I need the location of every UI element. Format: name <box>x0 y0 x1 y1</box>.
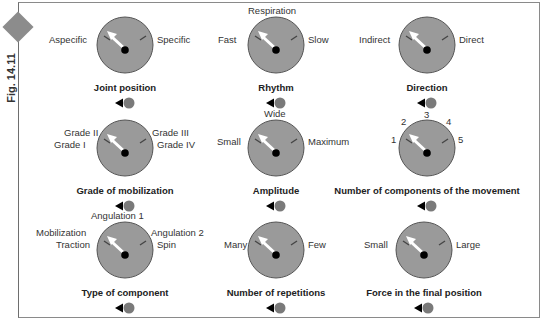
dial-label: 4 <box>446 116 451 127</box>
dial-label: 1 <box>391 134 396 145</box>
dial-gauge-icon[interactable] <box>96 221 154 279</box>
dial-label: 2 <box>401 116 406 127</box>
dial-gauge-icon[interactable] <box>96 16 154 74</box>
dial-title: Number of components of the movement <box>334 185 519 196</box>
dial-rhythm: Fast Respiration Slow Rhythm <box>276 45 277 46</box>
dial-label: Spin <box>157 239 176 250</box>
dial-number-of-repetitions: Many Few Number of repetitions <box>276 250 277 251</box>
dial-gauge-icon[interactable] <box>247 119 305 177</box>
dial-label: Indirect <box>359 34 390 45</box>
dial-title: Direction <box>406 82 447 93</box>
dial-title: Type of component <box>82 287 169 298</box>
dial-label: Grade IV <box>157 139 195 150</box>
dial-label: Many <box>224 239 247 250</box>
dial-label: Small <box>364 239 388 250</box>
dial-type-of-component: Angulation 1 Mobilization Traction Angul… <box>125 250 126 251</box>
dial-label: Fast <box>218 34 236 45</box>
dial-label: Wide <box>264 108 286 119</box>
dial-label: Mobilization <box>36 227 86 238</box>
dial-grade-of-mobilization: Grade II Grade I Grade III Grade IV Grad… <box>125 148 126 149</box>
dial-label: Angulation 2 <box>151 227 204 238</box>
dial-label: Grade III <box>152 127 189 138</box>
dial-label: Aspecific <box>49 34 87 45</box>
control-toggle-icon[interactable] <box>414 302 436 314</box>
control-toggle-icon[interactable] <box>266 302 288 314</box>
dial-gauge-icon[interactable] <box>395 221 453 279</box>
dial-gauge-icon[interactable] <box>398 16 456 74</box>
dial-title: Force in the final position <box>366 287 482 298</box>
dial-number-of-components: 1 2 3 4 5 Number of components of the mo… <box>427 148 428 149</box>
dial-amplitude: Small Wide Maximum Amplitude <box>276 148 277 149</box>
dial-title: Number of repetitions <box>227 287 326 298</box>
dial-joint-position: Aspecific Specific Joint position <box>125 45 126 46</box>
control-toggle-icon[interactable] <box>266 200 288 212</box>
control-toggle-icon[interactable] <box>417 200 439 212</box>
dial-label: Direct <box>459 34 484 45</box>
control-toggle-icon[interactable] <box>417 97 439 109</box>
dial-gauge-icon[interactable] <box>247 16 305 74</box>
dial-label: Specific <box>157 34 190 45</box>
dial-label: Slow <box>308 34 329 45</box>
dial-label: Maximum <box>308 136 349 147</box>
dial-title: Joint position <box>94 82 156 93</box>
dial-label: 5 <box>458 134 463 145</box>
dial-label: Angulation 1 <box>91 210 144 221</box>
control-toggle-icon[interactable] <box>115 97 137 109</box>
dial-label: Traction <box>56 239 90 250</box>
dial-gauge-icon[interactable] <box>247 221 305 279</box>
dial-title: Grade of mobilization <box>76 185 173 196</box>
control-toggle-icon[interactable] <box>115 302 137 314</box>
dial-gauge-icon[interactable] <box>96 119 154 177</box>
dial-title: Amplitude <box>253 185 299 196</box>
dial-label: Few <box>308 239 326 250</box>
dial-gauge-icon[interactable] <box>398 119 456 177</box>
dial-direction: Indirect Direct Direction <box>427 45 428 46</box>
dial-label: Small <box>217 136 241 147</box>
dial-label: Large <box>456 239 480 250</box>
dial-label: 3 <box>424 109 429 120</box>
figure-label: Fig. 14.11 <box>5 53 21 103</box>
dial-force-in-final-position: Small Large Force in the final position <box>424 250 425 251</box>
dial-title: Rhythm <box>258 82 293 93</box>
dial-label: Respiration <box>248 5 296 16</box>
dial-label: Grade I <box>54 139 86 150</box>
dial-label: Grade II <box>64 127 98 138</box>
